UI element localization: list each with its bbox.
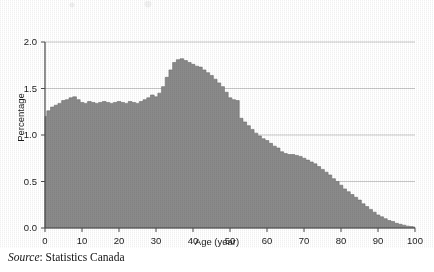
y-tick-label: 2.0 (11, 36, 37, 47)
source-label: Source (8, 251, 40, 263)
x-axis-title: Age (year) (0, 236, 434, 247)
x-tick-group (45, 228, 415, 232)
y-tick-label: 0.5 (11, 176, 37, 187)
y-tick-label: 0.0 (11, 222, 37, 233)
y-axis-title: Percentage (15, 78, 26, 158)
source-value: Statistics Canada (46, 251, 125, 263)
figure-container: 0.00.51.01.52.0 0102030405060708090100 P… (0, 0, 434, 272)
source-caption: Source: Statistics Canada (8, 251, 124, 263)
age-distribution-area-chart (0, 0, 434, 248)
area-series-path (45, 59, 415, 228)
chart-plot-area: 0.00.51.01.52.0 0102030405060708090100 P… (0, 0, 434, 248)
